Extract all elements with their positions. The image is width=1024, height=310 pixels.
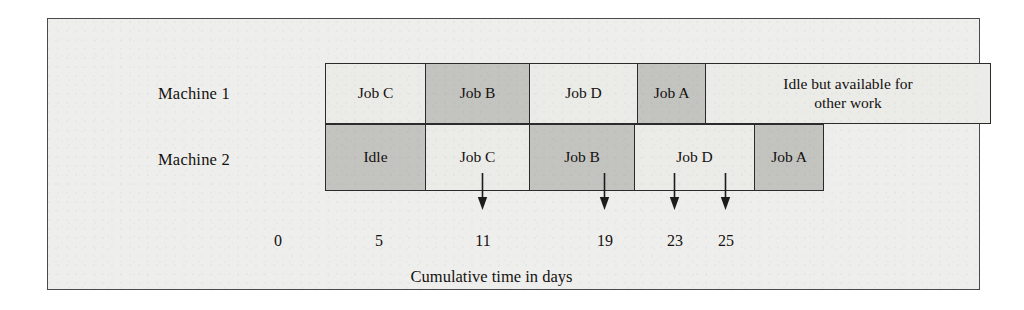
- gantt-figure-panel: Machine 1 Machine 2 Job CJob BJob DJob A…: [47, 18, 980, 290]
- gantt-bar: Job C: [425, 124, 530, 191]
- gantt-bar: Job B: [425, 63, 530, 124]
- gantt-bar: Job A: [754, 124, 824, 191]
- figure-screenshot: Machine 1 Machine 2 Job CJob BJob DJob A…: [0, 0, 1024, 310]
- axis-caption-text: Cumulative time in days: [411, 267, 573, 286]
- axis-tick-label: 19: [597, 232, 613, 250]
- axis-tick-label: 25: [718, 232, 734, 250]
- axis-caption: Cumulative time in days: [48, 267, 979, 287]
- machine-2-row-label: Machine 2: [158, 150, 230, 170]
- axis-tick-label: 11: [475, 232, 490, 250]
- gantt-chart: Job CJob BJob DJob AIdle but available f…: [325, 63, 991, 191]
- gantt-bar: Idle: [325, 124, 426, 191]
- gantt-bar: Job D: [529, 63, 638, 124]
- axis-tick-label: 23: [667, 232, 683, 250]
- axis-tick-label: 0: [274, 232, 282, 250]
- gantt-bar: Job C: [325, 63, 426, 124]
- gantt-bar: Job A: [637, 63, 706, 124]
- machine-1-row-label: Machine 1: [158, 84, 230, 104]
- axis-tick-label: 5: [375, 232, 383, 250]
- gantt-bar: Job D: [634, 124, 755, 191]
- gantt-bar: Idle but available for other work: [705, 63, 991, 124]
- gantt-bar: Job B: [529, 124, 635, 191]
